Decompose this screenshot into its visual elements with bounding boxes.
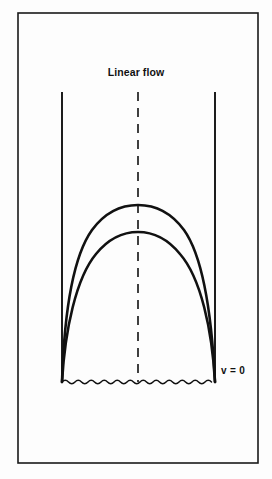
velocity-zero-annotation: v = 0 [221, 365, 245, 376]
figure-container: Linear flow v = 0 [0, 0, 272, 479]
figure-title: Linear flow [0, 66, 272, 78]
